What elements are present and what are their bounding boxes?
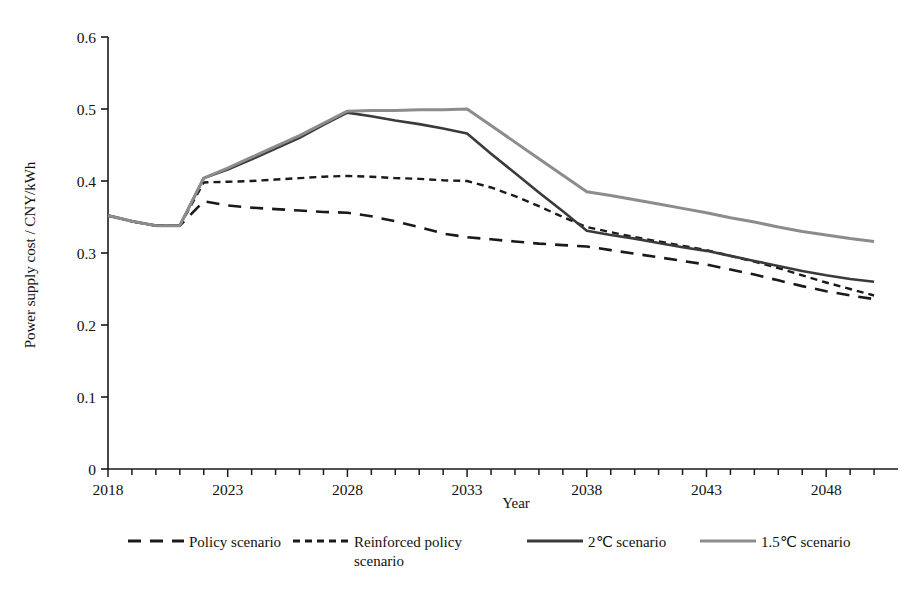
chart-figure: 00.10.20.30.40.50.6 20182023202820332038… (0, 0, 924, 601)
chart-background (0, 0, 924, 601)
y-tick-label: 0.1 (77, 389, 96, 406)
legend-label: Reinforced policy (354, 534, 462, 550)
legend-label: 1.5℃ scenario (761, 534, 850, 550)
y-tick-label: 0.3 (77, 245, 97, 262)
y-tick-label: 0.6 (77, 29, 97, 46)
y-tick-label: 0.4 (77, 173, 97, 190)
x-tick-label: 2028 (332, 481, 363, 498)
y-axis-title: Power supply cost / CNY/kWh (22, 161, 38, 348)
x-tick-label: 2023 (212, 481, 243, 498)
y-tick-label: 0.5 (77, 101, 97, 118)
legend-label: Policy scenario (189, 534, 281, 550)
y-tick-label: 0 (88, 461, 96, 478)
chart-svg: 00.10.20.30.40.50.6 20182023202820332038… (0, 0, 924, 601)
x-tick-label: 2018 (93, 481, 124, 498)
x-tick-label: 2038 (571, 481, 602, 498)
y-tick-label: 0.2 (77, 317, 96, 334)
x-tick-label: 2043 (691, 481, 722, 498)
x-axis-title: Year (502, 495, 530, 511)
x-tick-label: 2048 (811, 481, 842, 498)
legend-label: 2℃ scenario (588, 534, 666, 550)
legend-label-line2: scenario (354, 553, 404, 569)
x-tick-label: 2033 (452, 481, 483, 498)
